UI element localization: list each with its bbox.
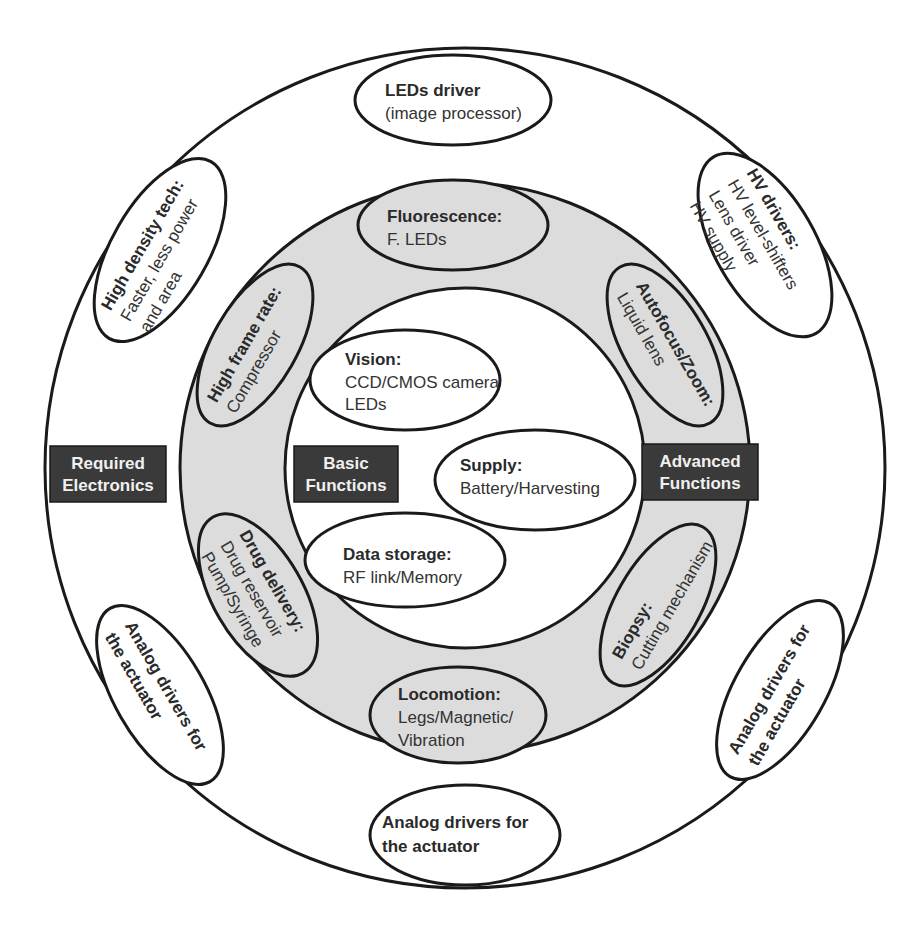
svg-text:Supply:: Supply: — [460, 456, 522, 475]
ellipse-fluorescence: Fluorescence: F. LEDs — [358, 180, 548, 270]
ellipse-data-storage: Data storage: RF link/Memory — [305, 513, 505, 607]
svg-text:LEDs driver: LEDs driver — [385, 81, 481, 100]
svg-text:LEDs: LEDs — [345, 395, 387, 414]
concentric-diagram: LEDs driver (image processor) HV drivers… — [0, 0, 913, 931]
svg-text:Electronics: Electronics — [62, 476, 154, 495]
ellipse-vision: Vision: CCD/CMOS camera LEDs — [310, 330, 500, 430]
svg-text:Vision:: Vision: — [345, 350, 401, 369]
svg-text:Legs/Magnetic/: Legs/Magnetic/ — [398, 708, 514, 727]
svg-text:Locomotion:: Locomotion: — [398, 685, 501, 704]
ellipse-analog-drivers-bottom: Analog drivers for the actuator — [370, 785, 560, 885]
svg-text:Data storage:: Data storage: — [343, 545, 452, 564]
label-basic-functions: Basic Functions — [294, 446, 398, 502]
svg-text:Battery/Harvesting: Battery/Harvesting — [460, 479, 600, 498]
svg-text:Vibration: Vibration — [398, 731, 465, 750]
svg-text:Fluorescence:: Fluorescence: — [387, 207, 502, 226]
svg-text:Analog drivers for: Analog drivers for — [382, 813, 529, 832]
svg-text:RF link/Memory: RF link/Memory — [343, 568, 463, 587]
label-advanced-functions: Advanced Functions — [642, 444, 758, 500]
svg-text:F. LEDs: F. LEDs — [387, 230, 447, 249]
svg-text:Functions: Functions — [659, 474, 740, 493]
label-required-electronics: Required Electronics — [50, 446, 166, 502]
svg-text:Advanced: Advanced — [659, 452, 740, 471]
ellipse-supply: Supply: Battery/Harvesting — [435, 430, 635, 530]
ellipse-locomotion: Locomotion: Legs/Magnetic/ Vibration — [370, 667, 546, 763]
svg-text:Required: Required — [71, 454, 145, 473]
ellipse-leds-driver: LEDs driver (image processor) — [355, 55, 551, 145]
svg-text:CCD/CMOS camera: CCD/CMOS camera — [345, 373, 500, 392]
svg-text:Functions: Functions — [305, 476, 386, 495]
svg-text:Basic: Basic — [323, 454, 368, 473]
svg-text:(image processor): (image processor) — [385, 104, 522, 123]
svg-text:the actuator: the actuator — [382, 837, 480, 856]
